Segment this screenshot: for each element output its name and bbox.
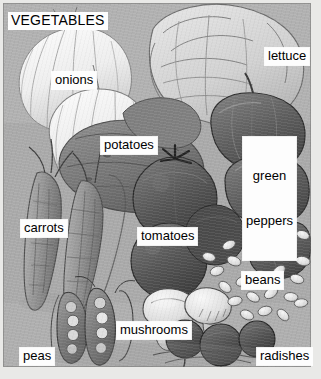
- label-peas: peas: [20, 348, 54, 365]
- label-beans: beans: [242, 272, 283, 289]
- label-carrots: carrots: [21, 220, 67, 237]
- vegetables-figure: VEGETABLES onions lettuce potatoes green…: [0, 0, 321, 379]
- label-potatoes: potatoes: [101, 137, 157, 154]
- label-onions: onions: [52, 72, 96, 89]
- figure-title: VEGETABLES: [8, 12, 108, 30]
- label-tomatoes: tomatoes: [138, 228, 197, 245]
- label-radishes: radishes: [257, 348, 312, 365]
- label-mushrooms: mushrooms: [117, 322, 191, 339]
- label-green-peppers: green peppers: [243, 137, 296, 260]
- label-green-peppers-line2: peppers: [246, 213, 293, 228]
- label-green-peppers-line1: green: [246, 168, 293, 183]
- label-lettuce: lettuce: [265, 48, 309, 65]
